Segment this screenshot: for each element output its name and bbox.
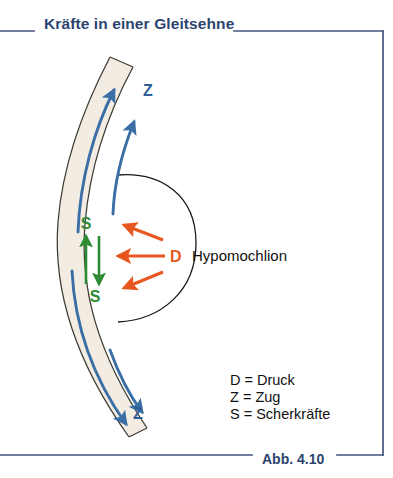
shear-label-top: S	[81, 215, 92, 232]
legend-item-zug: Z = Zug	[230, 389, 330, 406]
page-title: Kräfte in einer Gleitsehne	[44, 16, 234, 32]
pressure-label: D	[170, 248, 182, 265]
traction-label-bottom: Z	[133, 405, 143, 422]
shear-label-bottom: S	[90, 288, 101, 305]
hypomochlion-label: Hypomochlion	[192, 248, 287, 263]
legend-item-scherkraefte: S = Scherkräfte	[230, 406, 330, 423]
figure-caption: Abb. 4.10	[262, 452, 324, 466]
figure-canvas: Z Z S S D	[0, 0, 393, 478]
legend: D = Druck Z = Zug S = Scherkräfte	[230, 372, 330, 423]
traction-label-top: Z	[143, 82, 153, 99]
legend-item-druck: D = Druck	[230, 372, 330, 389]
